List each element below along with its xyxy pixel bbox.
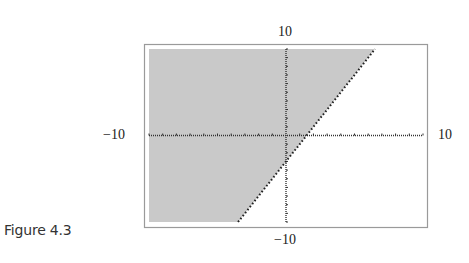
figure-caption: Figure 4.3	[4, 222, 71, 238]
y-max-label: 10	[278, 25, 292, 39]
figure: 10 −10 −10 10 Figure 4.3	[0, 0, 469, 263]
y-min-label: −10	[274, 233, 296, 247]
x-max-label: 10	[438, 128, 452, 142]
x-min-label: −10	[103, 128, 125, 142]
